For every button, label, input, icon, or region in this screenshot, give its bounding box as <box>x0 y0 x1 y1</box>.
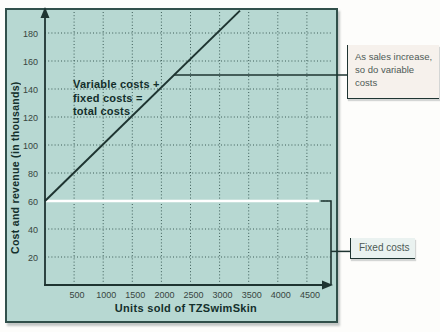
x-tick-label: 3000 <box>213 290 233 300</box>
x-tick-label: 3500 <box>242 290 262 300</box>
y-tick-label: 40 <box>28 225 38 235</box>
total-costs-label: Variable costs + fixed costs = total cos… <box>73 78 160 119</box>
y-axis-title: Cost and revenue (in thousands) <box>9 45 26 290</box>
x-axis-title: Units sold of TZSwimSkin <box>45 302 327 314</box>
x-tick-label: 4000 <box>271 290 291 300</box>
x-tick-label: 500 <box>70 290 85 300</box>
x-tick-label: 1000 <box>96 290 116 300</box>
variable-costs-callout: As sales increase, so do variable costs <box>347 45 439 99</box>
y-tick-label: 180 <box>23 29 38 39</box>
y-axis-arrow-icon <box>41 7 50 18</box>
fixed-costs-bracket <box>321 201 331 285</box>
x-tick-label: 4500 <box>300 290 320 300</box>
x-tick-label: 2000 <box>154 290 174 300</box>
x-tick-label: 2500 <box>183 290 203 300</box>
figure-canvas: 2040608010012014016018050010001500200025… <box>0 0 440 332</box>
y-tick-label: 80 <box>28 169 38 179</box>
y-tick-label: 20 <box>28 253 38 263</box>
y-tick-label: 60 <box>28 197 38 207</box>
x-tick-label: 1500 <box>125 290 145 300</box>
fixed-costs-callout: Fixed costs <box>350 238 415 259</box>
